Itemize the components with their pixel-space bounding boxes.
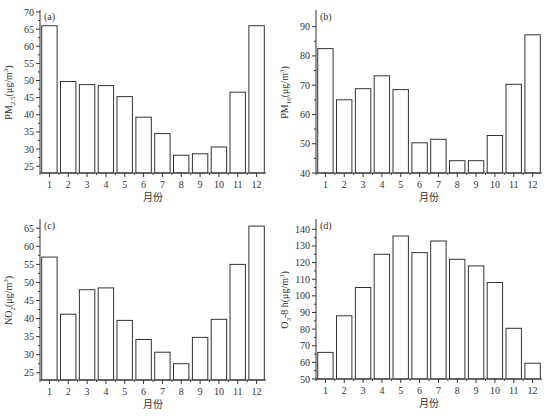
bar-month-2 (337, 100, 352, 173)
bar-month-10 (211, 147, 226, 173)
bar-month-11 (506, 328, 521, 379)
x-tick-label: 1 (323, 385, 328, 396)
bar-month-12 (525, 35, 540, 173)
x-tick-label: 11 (509, 385, 519, 396)
x-tick-label: 10 (214, 179, 224, 190)
x-tick-label: 8 (179, 386, 184, 397)
y-tick-label: 55 (24, 259, 34, 270)
x-tick-label: 9 (474, 179, 479, 190)
x-axis-title: 月份 (419, 192, 439, 203)
y-tick-label: 50 (300, 374, 310, 385)
bar-month-5 (117, 320, 132, 380)
y-tick-label: 70 (300, 80, 310, 91)
bar-month-9 (468, 161, 483, 173)
y-tick-label: 25 (24, 161, 34, 172)
panel-label: (a) (44, 11, 55, 23)
x-tick-label: 4 (103, 386, 108, 397)
y-tick-label: 40 (24, 109, 34, 120)
x-tick-label: 3 (361, 179, 366, 190)
x-tick-label: 5 (122, 179, 127, 190)
x-tick-label: 6 (417, 385, 422, 396)
x-axis-title: 月份 (419, 398, 439, 409)
x-tick-label: 7 (436, 179, 441, 190)
x-tick-label: 4 (379, 179, 384, 190)
bar-month-3 (79, 85, 94, 173)
panel-label: (b) (320, 11, 332, 23)
bar-month-7 (431, 241, 446, 379)
x-tick-label: 4 (103, 179, 108, 190)
bar-month-8 (450, 161, 465, 173)
x-tick-label: 12 (252, 386, 262, 397)
y-axis-title: PM10(μg/m3) (278, 66, 293, 119)
bar-month-10 (211, 319, 226, 380)
x-tick-label: 1 (47, 179, 52, 190)
y-axis-title: PM2.5(μg/m3) (2, 65, 17, 119)
chart-panel-d: 5060708090100110120130140123456789101112… (278, 219, 542, 409)
bar-month-1 (318, 352, 333, 379)
y-tick-label: 140 (295, 224, 310, 235)
y-tick-label: 35 (24, 331, 34, 342)
bar-month-11 (230, 264, 245, 380)
y-tick-label: 60 (24, 41, 34, 52)
bar-month-2 (61, 82, 76, 174)
chart-panel-a: 25303540455055606570123456789101112月份PM2… (2, 7, 266, 204)
bar-month-3 (79, 290, 94, 380)
y-tick-label: 90 (300, 307, 310, 318)
x-tick-label: 8 (455, 385, 460, 396)
x-axis-title: 月份 (143, 192, 163, 203)
y-tick-label: 40 (24, 313, 34, 324)
y-tick-label: 55 (24, 58, 34, 69)
x-tick-label: 8 (179, 179, 184, 190)
x-tick-label: 3 (85, 386, 90, 397)
x-tick-label: 6 (141, 386, 146, 397)
x-tick-label: 6 (417, 179, 422, 190)
y-tick-label: 110 (295, 274, 310, 285)
y-tick-label: 70 (300, 340, 310, 351)
x-tick-label: 11 (509, 179, 519, 190)
x-tick-label: 9 (474, 385, 479, 396)
bar-month-7 (155, 352, 170, 380)
y-tick-label: 50 (24, 277, 34, 288)
y-tick-label: 40 (300, 168, 310, 179)
bar-month-1 (318, 49, 333, 173)
bar-month-10 (487, 136, 502, 174)
bar-month-12 (249, 26, 264, 173)
x-tick-label: 7 (160, 386, 165, 397)
bar-month-5 (393, 90, 408, 173)
bar-month-9 (468, 266, 483, 379)
bar-month-6 (412, 143, 427, 173)
x-tick-label: 12 (528, 179, 538, 190)
x-tick-label: 11 (233, 179, 243, 190)
y-tick-label: 60 (300, 357, 310, 368)
y-tick-label: 80 (300, 50, 310, 61)
panel-label: (c) (44, 220, 55, 232)
bar-month-4 (98, 86, 113, 173)
y-tick-label: 130 (295, 240, 310, 251)
bar-month-9 (192, 154, 207, 173)
y-tick-label: 120 (295, 257, 310, 268)
x-tick-label: 2 (66, 386, 71, 397)
x-tick-label: 5 (122, 386, 127, 397)
x-tick-label: 12 (528, 385, 538, 396)
x-tick-label: 8 (455, 179, 460, 190)
x-tick-label: 7 (160, 179, 165, 190)
y-tick-label: 35 (24, 126, 34, 137)
y-tick-label: 90 (300, 21, 310, 32)
bar-month-11 (506, 84, 521, 173)
x-tick-label: 2 (342, 179, 347, 190)
x-axis-title: 月份 (143, 399, 163, 410)
y-tick-label: 60 (300, 109, 310, 120)
y-tick-label: 80 (300, 324, 310, 335)
bar-month-6 (136, 117, 151, 173)
chart-panel-b: 405060708090123456789101112月份PM10(μg/m3)… (278, 10, 542, 203)
y-tick-label: 45 (24, 92, 34, 103)
bar-month-2 (337, 316, 352, 379)
bar-month-9 (192, 337, 207, 380)
y-tick-label: 70 (24, 7, 34, 18)
figure-four-panel-bar-charts: 25303540455055606570123456789101112月份PM2… (0, 0, 552, 418)
x-tick-label: 10 (214, 386, 224, 397)
y-tick-label: 50 (300, 138, 310, 149)
y-tick-label: 30 (24, 144, 34, 155)
bar-month-6 (136, 340, 151, 381)
bar-month-4 (98, 288, 113, 380)
